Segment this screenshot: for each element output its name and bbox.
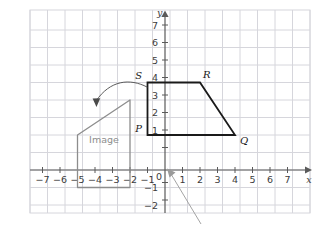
y-tick-label-6: 6 [152,37,158,48]
x-axis-label: x [306,174,312,185]
graph-canvas: −7 −6 −5 −4 −3 −2 −1 0 1 2 3 4 5 6 7 7 6… [0,0,323,228]
vertex-label-s: S [135,70,142,81]
y-tick-label--2: −2 [144,200,158,211]
x-tick-label-1: 1 [179,174,185,185]
x-tick-label-5: 5 [249,174,255,185]
vertex-label-p: P [134,123,142,134]
x-tick-label-7: 7 [284,174,290,185]
y-tick-label-2: 2 [152,107,158,118]
vertex-label-r: R [202,69,211,80]
x-tick-label-2: 2 [197,174,203,185]
y-tick-label-4: 4 [152,72,158,83]
y-tick-label-7: 7 [152,20,158,31]
coordinate-plane-figure: −7 −6 −5 −4 −3 −2 −1 0 1 2 3 4 5 6 7 7 6… [0,0,323,228]
y-tick-label-5: 5 [152,55,158,66]
x-tick-label--7: −7 [35,174,49,185]
y-axis-label: y [156,7,163,18]
x-tick-label--3: −3 [105,174,119,185]
x-tick-label-3: 3 [214,174,220,185]
x-tick-label--4: −4 [88,174,102,185]
y-tick-label-1: 1 [152,125,158,136]
y-tick-label--1: −1 [144,182,158,193]
x-tick-label-6: 6 [267,174,273,185]
x-tick-label--6: −6 [53,174,67,185]
image-polygon-label: Image [89,134,119,145]
x-tick-label-4: 4 [232,174,238,185]
origin-label: 0 [156,171,162,182]
y-tick-label-3: 3 [152,90,158,101]
vertex-label-q: Q [240,135,248,146]
